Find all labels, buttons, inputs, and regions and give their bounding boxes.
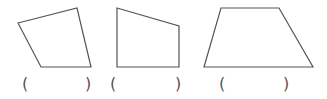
answer-2-close-paren: ) <box>175 74 181 94</box>
quadrilateral-figure-1 <box>18 8 91 67</box>
answer-1-close-paren: ) <box>85 74 91 94</box>
right-trapezoid-figure-2 <box>117 8 179 67</box>
trapezoid-figure-3 <box>204 8 313 67</box>
answer-2-open-paren: ( <box>110 74 116 94</box>
figures-canvas <box>0 0 327 99</box>
answer-3-open-paren: ( <box>219 74 225 94</box>
answer-1-open-paren: ( <box>22 74 28 94</box>
answer-3-close-paren: ) <box>283 74 289 94</box>
